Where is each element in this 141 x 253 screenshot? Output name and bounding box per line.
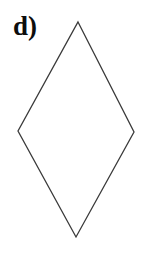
rhombus-outline	[18, 22, 134, 237]
figure-panel: d)	[0, 0, 141, 253]
figure-label: d)	[13, 12, 37, 40]
